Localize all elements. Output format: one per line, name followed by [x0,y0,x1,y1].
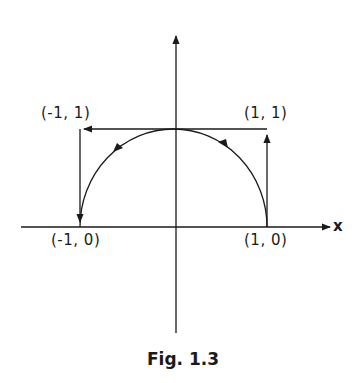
x-axis-label: x [333,217,343,235]
figure-caption: Fig. 1.3 [147,349,219,369]
semicircle [80,129,267,227]
label-bottom-right: (1, 0) [244,231,287,249]
semicircle-arrow-left [113,143,123,152]
figure-canvas [0,0,359,383]
label-top-left: (-1, 1) [41,104,90,122]
semicircle-arrow-right [218,139,228,148]
label-bottom-left: (-1, 0) [51,231,100,249]
label-top-right: (1, 1) [244,104,287,122]
